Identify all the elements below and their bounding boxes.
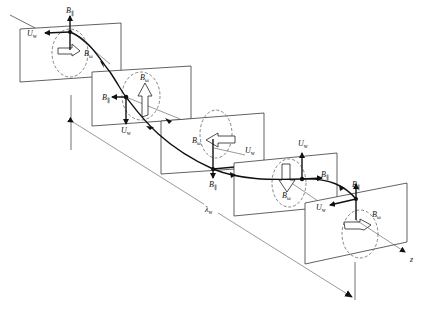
label-u-w-4: Uw [298,139,308,149]
label-u-w-2: Uw [121,126,131,136]
trajectory-arrow [339,185,345,191]
label-b-parallel-5: B∥ [352,180,360,191]
label-b-parallel-1: B∥ [66,6,74,17]
u-w-vector [45,32,70,33]
diagram-canvas: B∥ Uw Bω Bω B∥ Uw Bω Uw B∥ Uw B∥ Bω B∥ U… [0,0,422,318]
wiggler-diagram: B∥ Uw Bω Bω B∥ Uw Bω Uw B∥ Uw B∥ Bω B∥ U… [0,0,422,318]
label-z-axis: z [409,255,414,264]
label-b-parallel-3: B∥ [209,180,217,191]
